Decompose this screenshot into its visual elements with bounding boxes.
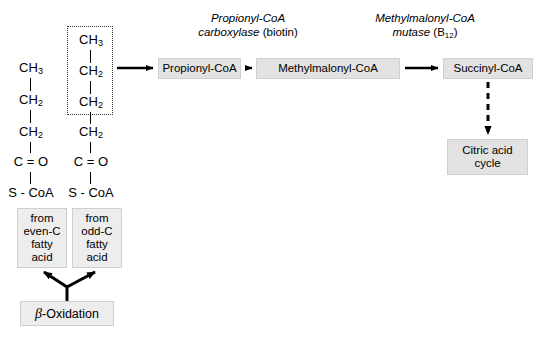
beta-oxidation-label: -Oxidation xyxy=(42,307,99,321)
metabolite-box-succinyl-coa[interactable]: Succinyl-CoA xyxy=(443,58,533,79)
enzyme-name-line1: Propionyl-CoA xyxy=(211,12,285,24)
enzyme-cofactor: (B xyxy=(430,26,445,38)
atom-label: CH xyxy=(19,92,38,107)
odd-chain-ch2-1: CH2 xyxy=(68,63,114,79)
source-line: odd-C xyxy=(81,225,112,238)
atom-subscript: 3 xyxy=(38,66,43,76)
odd-chain-carbonyl: C = O xyxy=(66,154,116,169)
cycle-line: cycle xyxy=(462,157,512,170)
bond-line xyxy=(30,172,31,184)
bond-line xyxy=(30,78,31,91)
odd-chain-ch2-2: CH2 xyxy=(68,94,114,110)
bond-line xyxy=(90,50,91,63)
source-line: from xyxy=(23,212,60,225)
atom-subscript: 2 xyxy=(38,98,43,108)
pathway-diagram: CH3 CH2 CH2 C = O S - CoA CH3 CH2 CH2 CH… xyxy=(0,0,541,341)
enzyme-label-methylmalonyl-coa-mutase: Methylmalonyl-CoA mutase (B12) xyxy=(355,11,495,43)
bond-line xyxy=(30,110,31,123)
atom-label: CH xyxy=(79,124,98,139)
beta-symbol: β xyxy=(35,306,42,321)
beta-oxidation-box[interactable]: β-Oxidation xyxy=(20,301,114,326)
enzyme-name-line1: Methylmalonyl-CoA xyxy=(375,12,475,24)
atom-label: CH xyxy=(19,60,38,75)
odd-chain-ch2-3: CH2 xyxy=(68,124,114,140)
even-chain-scoa: S - CoA xyxy=(3,185,59,200)
odd-chain-scoa: S - CoA xyxy=(63,185,119,200)
enzyme-cofactor: (biotin) xyxy=(260,26,298,38)
source-line: from xyxy=(81,212,112,225)
atom-subscript: 2 xyxy=(98,130,103,140)
arrow-beta-oxidation-to-even-c xyxy=(44,272,67,287)
source-box-odd-c[interactable]: from odd-C fatty acid xyxy=(72,208,122,268)
source-line: acid xyxy=(81,251,112,264)
even-chain-carbonyl: C = O xyxy=(6,154,56,169)
enzyme-label-propionyl-coa-carboxylase: Propionyl-CoA carboxylase (biotin) xyxy=(178,11,318,39)
bond-line xyxy=(90,142,91,153)
arrow-beta-oxidation-to-odd-c xyxy=(67,272,95,287)
atom-subscript: 2 xyxy=(98,69,103,79)
bond-line xyxy=(90,172,91,184)
source-line: even-C xyxy=(23,225,60,238)
enzyme-name-line2: carboxylase xyxy=(198,26,259,38)
atom-label: CH xyxy=(79,63,98,78)
even-chain-ch3: CH3 xyxy=(8,60,54,76)
metabolite-box-propionyl-coa[interactable]: Propionyl-CoA xyxy=(158,58,241,79)
metabolite-box-citric-acid-cycle[interactable]: Citric acid cycle xyxy=(447,139,528,175)
metabolite-box-methylmalonyl-coa[interactable]: Methylmalonyl-CoA xyxy=(256,58,400,79)
atom-subscript: 2 xyxy=(38,130,43,140)
odd-chain-ch3: CH3 xyxy=(68,32,114,48)
even-chain-ch2-1: CH2 xyxy=(8,92,54,108)
cycle-line: Citric acid xyxy=(462,144,512,157)
atom-subscript: 3 xyxy=(98,38,103,48)
atom-label: CH xyxy=(19,124,38,139)
atom-label: CH xyxy=(79,32,98,47)
bond-line xyxy=(90,112,91,124)
source-line: fatty xyxy=(23,238,60,251)
source-line: acid xyxy=(23,251,60,264)
atom-subscript: 2 xyxy=(98,100,103,110)
source-box-even-c[interactable]: from even-C fatty acid xyxy=(17,208,67,268)
enzyme-name-line2: mutase xyxy=(392,26,430,38)
atom-label: CH xyxy=(79,94,98,109)
bond-line xyxy=(90,81,91,94)
source-line: fatty xyxy=(81,238,112,251)
bond-line xyxy=(30,142,31,153)
enzyme-cofactor-close: ) xyxy=(454,26,458,38)
even-chain-ch2-2: CH2 xyxy=(8,124,54,140)
cofactor-subscript: 12 xyxy=(445,31,454,40)
